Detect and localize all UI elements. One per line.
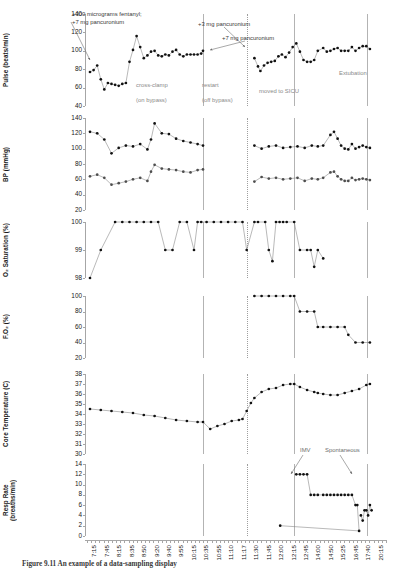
data-point: [103, 176, 106, 179]
data-point: [343, 147, 346, 150]
data-point: [171, 249, 174, 252]
x-tick-label-4: 8:50: [140, 545, 147, 557]
data-point: [354, 341, 357, 344]
data-point: [260, 295, 263, 298]
data-point: [369, 383, 372, 386]
o2-saturation-y-tickmark-0: [83, 278, 86, 279]
x-minor-tick: [129, 540, 130, 543]
x-minor-tick: [374, 540, 375, 543]
data-point: [288, 51, 291, 54]
x-minor-tick: [353, 540, 354, 543]
data-point: [369, 179, 372, 182]
data-point: [336, 175, 339, 178]
data-point: [142, 414, 145, 417]
data-point: [257, 221, 260, 224]
data-point: [316, 392, 319, 395]
event-label-extubation: Extubation: [339, 70, 367, 76]
data-point: [291, 46, 294, 49]
data-point: [370, 509, 373, 512]
x-tick-label-5: 9:20: [153, 545, 160, 557]
x-minor-tick: [311, 540, 312, 543]
data-point: [175, 137, 178, 140]
data-point: [139, 46, 142, 49]
resp-rate-y-tickmark-0: [83, 536, 86, 537]
data-point: [306, 60, 309, 63]
x-minor-tick: [361, 540, 362, 543]
data-point: [266, 61, 269, 64]
data-point: [358, 388, 361, 391]
data-point: [347, 494, 350, 497]
data-point: [358, 530, 361, 533]
data-point: [333, 48, 336, 51]
data-point: [279, 524, 282, 527]
core-temperature-series-0-line: [90, 384, 370, 429]
data-point: [168, 54, 171, 57]
x-minor-tick: [261, 540, 262, 543]
data-point: [110, 152, 113, 155]
fio2-plot: [0, 296, 393, 358]
x-minor-tick: [253, 540, 254, 543]
data-point: [227, 221, 230, 224]
data-point: [114, 83, 117, 86]
data-point: [316, 249, 319, 252]
data-point: [282, 147, 285, 150]
data-point: [209, 428, 212, 431]
data-point: [260, 176, 263, 179]
x-minor-tick: [303, 540, 304, 543]
data-point: [117, 147, 120, 150]
data-point: [273, 60, 276, 63]
data-point: [299, 473, 302, 476]
data-point: [306, 310, 309, 313]
data-point: [259, 70, 262, 73]
data-point: [360, 514, 363, 517]
data-point: [267, 295, 270, 298]
data-point: [289, 146, 292, 149]
data-point: [333, 170, 336, 173]
data-point: [322, 176, 325, 179]
data-point: [293, 383, 296, 386]
data-point: [178, 53, 181, 56]
data-point: [313, 59, 316, 62]
x-minor-tick: [324, 540, 325, 543]
data-point: [284, 56, 287, 59]
data-point: [295, 42, 298, 45]
x-minor-tick: [237, 540, 238, 543]
data-point: [322, 494, 325, 497]
x-tick-label-8: 10:15: [190, 545, 197, 560]
x-minor-tick: [108, 540, 109, 543]
x-minor-tick: [336, 540, 337, 543]
data-point: [139, 176, 142, 179]
data-point: [358, 146, 361, 149]
data-point: [336, 494, 339, 497]
data-point: [160, 167, 163, 170]
bp-plot: [0, 118, 393, 210]
o2-saturation-plot: [0, 222, 393, 278]
data-point: [333, 494, 336, 497]
data-point: [329, 326, 332, 329]
data-point: [135, 35, 138, 38]
data-point: [340, 49, 343, 52]
anesthesia-record-figure: Pulse (beats/min)406080100120140BP (mmHg…: [0, 0, 393, 570]
data-point: [189, 53, 192, 56]
data-point: [89, 130, 92, 133]
data-point: [150, 170, 153, 173]
panel-resp-rate: Resp Rate (breaths/min)02468101214: [0, 464, 393, 536]
data-point: [329, 394, 332, 397]
data-point: [157, 221, 160, 224]
drug-annotation-fentanyl-pancuronium: +300 micrograms fentanyl;+7 mg pancuroni…: [72, 10, 142, 26]
data-point: [146, 148, 149, 151]
panel-pulse: Pulse (beats/min)406080100120140: [0, 14, 393, 106]
data-point: [313, 391, 316, 394]
data-point: [278, 221, 281, 224]
x-minor-tick: [120, 540, 121, 543]
data-point: [223, 423, 226, 426]
drug-annotation-line2: +7 mg pancuronium: [72, 18, 142, 26]
x-minor-tick: [137, 540, 138, 543]
data-point: [132, 412, 135, 415]
data-point: [361, 45, 364, 48]
data-point: [329, 494, 332, 497]
x-tick-label-12: 11:17: [240, 545, 247, 560]
data-point: [313, 265, 316, 268]
data-point: [340, 178, 343, 181]
x-minor-tick: [266, 540, 267, 543]
